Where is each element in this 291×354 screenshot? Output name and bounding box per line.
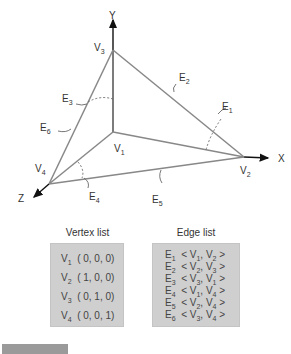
leader-e2 xyxy=(173,84,176,92)
vertex-row-2: V2 ( 1, 0, 0) xyxy=(61,272,114,285)
vertex-label-v1: V1 xyxy=(114,143,125,156)
z-axis xyxy=(34,184,49,197)
vertex-row-1: V1 ( 0, 0, 0) xyxy=(61,253,114,266)
leader-e3 xyxy=(76,104,87,105)
edge-label-e5: E5 xyxy=(152,194,163,207)
edge-label-e3: E3 xyxy=(62,93,73,106)
angle-arc-e1 xyxy=(206,119,221,150)
vertex-label-v4: V4 xyxy=(35,163,46,176)
edge-label-e6: E6 xyxy=(40,122,51,135)
leader-e5 xyxy=(160,170,162,183)
edge-row-6: E6 < V3, V4 > xyxy=(165,309,225,322)
vertex-label-v3: V3 xyxy=(94,42,105,55)
edge-e1 xyxy=(113,132,244,157)
vertex-list-box: V1 ( 0, 0, 0) V2 ( 1, 0, 0) V3 ( 0, 1, 0… xyxy=(50,243,124,327)
vertex-list-title: Vertex list xyxy=(50,227,125,238)
y-axis-label: Y xyxy=(109,10,116,21)
edge-label-e2: E2 xyxy=(179,72,190,85)
edge-label-e4: E4 xyxy=(89,191,100,204)
angle-arc-e4 xyxy=(78,162,83,178)
edge-e6 xyxy=(49,50,113,184)
edge-list-box: E1 < V1, V2 > E2 < V2, V3 > E3 < V3, V1 … xyxy=(152,243,240,327)
leader-e6 xyxy=(58,129,71,132)
figure-caption-bar xyxy=(2,344,68,354)
x-axis-label: X xyxy=(278,153,285,164)
vertex-row-4: V4 ( 0, 0, 1) xyxy=(61,310,114,323)
vertex-row-3: V3 ( 0, 1, 0) xyxy=(61,291,114,304)
angle-arc-e3 xyxy=(88,98,113,102)
tetrahedron-diagram: Y X Z V1 V2 V3 V4 E1 E2 E3 E4 E5 E6 xyxy=(0,0,291,240)
x-axis xyxy=(244,157,268,158)
vertex-label-v2: V2 xyxy=(240,165,251,178)
edge-list-title: Edge list xyxy=(152,227,240,238)
edge-label-e1: E1 xyxy=(222,101,233,114)
z-axis-label: Z xyxy=(18,193,24,204)
